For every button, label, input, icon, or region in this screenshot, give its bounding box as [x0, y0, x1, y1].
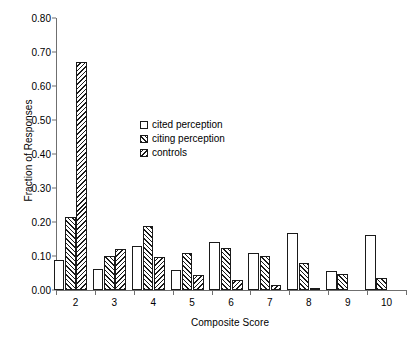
bar	[65, 217, 76, 290]
bar	[143, 226, 154, 290]
x-tick-label: 3	[112, 297, 118, 308]
legend-label: controls	[152, 148, 187, 158]
legend-swatch-icon	[140, 121, 148, 129]
bar	[287, 233, 298, 290]
x-axis-label: Composite Score	[55, 317, 405, 328]
x-tick-label: 6	[228, 297, 234, 308]
y-tick-label: 0.30	[32, 183, 56, 194]
y-tick-label: 0.70	[32, 47, 56, 58]
legend-item-citing-perception: citing perception	[140, 132, 225, 146]
bar	[132, 246, 143, 290]
bar	[221, 248, 232, 291]
x-tick-mark	[289, 290, 290, 295]
bar	[182, 253, 193, 290]
y-tick-label: 0.00	[32, 285, 56, 296]
x-tick-mark	[134, 290, 135, 295]
bar	[104, 256, 115, 290]
bar	[248, 253, 259, 290]
bar	[232, 280, 243, 290]
y-tick-label: 0.10	[32, 251, 56, 262]
x-tick-label: 7	[267, 297, 273, 308]
legend-item-controls: controls	[140, 146, 225, 160]
x-tick-mark	[367, 290, 368, 295]
bar	[171, 270, 182, 290]
legend-label: cited perception	[152, 120, 223, 130]
chart-legend: cited perception citing perception contr…	[140, 118, 225, 160]
x-tick-label: 10	[381, 297, 392, 308]
x-tick-mark	[406, 290, 407, 295]
y-tick-label: 0.40	[32, 149, 56, 160]
plot-area: 0.000.100.200.300.400.500.600.700.802345…	[56, 18, 406, 290]
x-tick-label: 8	[306, 297, 312, 308]
bar-chart: Fraction of Responses 0.000.100.200.300.…	[0, 0, 415, 340]
legend-item-cited-perception: cited perception	[140, 118, 225, 132]
y-tick-label: 0.60	[32, 81, 56, 92]
legend-label: citing perception	[152, 134, 225, 144]
x-axis-line	[56, 290, 406, 291]
bar	[115, 249, 126, 290]
x-tick-label: 5	[189, 297, 195, 308]
bar	[209, 242, 220, 290]
x-tick-mark	[95, 290, 96, 295]
bar	[193, 275, 204, 290]
bar	[93, 269, 104, 290]
bar	[310, 288, 321, 290]
bar	[154, 257, 165, 290]
y-tick-label: 0.50	[32, 115, 56, 126]
y-tick-label: 0.20	[32, 217, 56, 228]
bar	[271, 285, 282, 290]
bar	[337, 274, 348, 290]
x-tick-mark	[212, 290, 213, 295]
bar	[54, 260, 65, 290]
x-tick-mark	[328, 290, 329, 295]
x-tick-mark	[56, 290, 57, 295]
x-tick-label: 4	[150, 297, 156, 308]
y-tick-label: 0.80	[32, 13, 56, 24]
bar	[326, 271, 337, 290]
bar	[260, 256, 271, 290]
x-tick-mark	[173, 290, 174, 295]
bar	[76, 62, 87, 290]
legend-swatch-icon	[140, 149, 148, 157]
x-tick-label: 2	[73, 297, 79, 308]
x-tick-label: 9	[345, 297, 351, 308]
bar	[365, 235, 376, 290]
x-tick-mark	[250, 290, 251, 295]
bar	[376, 278, 387, 290]
legend-swatch-icon	[140, 135, 148, 143]
bar	[299, 263, 310, 290]
